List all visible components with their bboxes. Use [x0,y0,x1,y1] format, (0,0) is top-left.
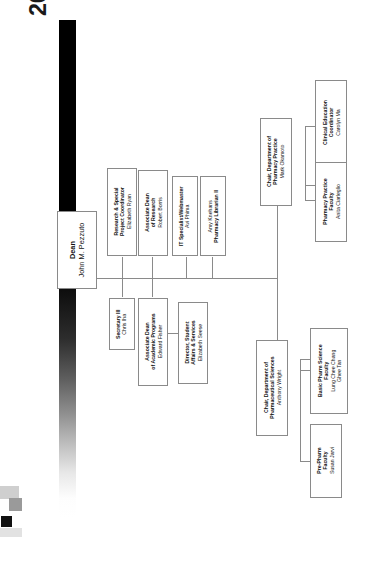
node-clinical-education-coordinator[interactable]: Clinical Education Coordinator Carolyn M… [315,80,347,166]
connector-pharm-sci-stub [300,359,310,360]
node-clinical-education-coordinator-title-1: Clinical Education [321,101,327,146]
node-pharmacy-practice-faculty-title-1: Pharmacy Practice [321,179,327,225]
node-pharmacy-practice-faculty-name: Anita Ciarleglio [334,179,340,225]
node-chair-pharmaceutical-sciences[interactable]: Chair, Department of Pharmaceutical Scie… [256,340,288,436]
node-pharmacy-practice-faculty[interactable]: Pharmacy Practice Faculty Anita Ciarlegl… [315,162,347,242]
node-research-coordinator-text: Research & Special Project Coordinator E… [112,188,131,237]
node-pharmacy-practice-faculty-text: Pharmacy Practice Faculty Anita Ciarlegl… [321,179,340,225]
connector-to-clinical-ed-coord [305,126,315,127]
connector-to-chair-pharmacy-practice [277,200,278,279]
connector-to-pharmacy-practice-faculty [305,185,315,186]
connector-to-assoc-dean-academic [152,279,153,297]
node-it-specialist-name: Avi Phima [185,186,191,246]
node-associate-dean-academic-title-2: of Academic Programs [150,314,156,370]
connector-to-basic-pharm-science-faculty [300,370,310,371]
node-it-specialist-text: IT Specialist/Webmaster Avi Phima [179,186,192,246]
node-director-student-affairs-title-2: Affairs & Services [190,321,196,365]
node-pharmacy-librarian[interactable]: Amy Knehans Pharmacy Librarian II [200,176,226,256]
node-chair-pharmaceutical-sciences-name: Anthony Wright [275,357,281,419]
node-director-student-affairs-title-1: Director, Student [183,321,189,365]
connector-to-pre-pharm-faculty [300,461,310,462]
node-chair-pharmacy-practice-name: Mark Okamoto [279,136,285,187]
node-associate-dean-academic-title-1: Associate Dean [143,314,149,370]
node-associate-dean-research[interactable]: Associate Dean of Research Robert Borris [138,170,168,256]
node-chair-pharmaceutical-sciences-text: Chair, Department of Pharmaceutical Scie… [262,357,281,419]
connector-to-assoc-dean-research [152,257,153,279]
node-pharmacy-practice-faculty-title-2: Faculty [328,179,334,225]
connector-pharmacy-practice-stub [305,200,315,201]
node-associate-dean-research-name: Robert Borris [156,194,162,233]
node-pre-pharm-faculty-name: Susan Jarvi [329,447,335,474]
node-chair-pharmaceutical-sciences-title-1: Chair, Department of [262,357,268,419]
connector-to-it-specialist [186,257,187,279]
node-dean-name: John M. Pezzuto [77,222,86,277]
org-chart-page: 2007 College of Pharmacy Organizational … [0,0,373,568]
node-research-coordinator[interactable]: Research & Special Project Coordinator E… [107,168,137,256]
node-research-coordinator-title-2: Project Coordinator [119,188,125,237]
node-dean-text: Dean John M. Pezzuto [68,222,86,277]
node-associate-dean-research-title-1: Associate Dean [143,194,149,233]
node-basic-pharm-science-faculty-title-2: Faculty [323,345,329,397]
connector-spine-main [112,278,278,279]
node-clinical-education-coordinator-name: Carolyn Ma [334,101,340,146]
node-secretary[interactable]: Secretary III Chris Iha [109,298,135,350]
node-dean[interactable]: Dean John M. Pezzuto [57,211,97,289]
node-secretary-text: Secretary III Chris Iha [116,309,129,338]
node-associate-dean-academic[interactable]: Associate Dean of Academic Programs Edwa… [138,298,168,386]
node-pre-pharm-faculty[interactable]: Pre-Pharm Faculty Susan Jarvi [310,424,342,498]
node-chair-pharmaceutical-sciences-title-2: Pharmaceutical Sciences [269,357,275,419]
connector-dean-to-spine [97,278,113,279]
connector-to-librarian [212,257,213,279]
node-chair-pharmacy-practice[interactable]: Chair, Department of Pharmacy Practice M… [260,118,292,206]
node-basic-pharm-science-faculty[interactable]: Basic Pharm Science Faculty Lung Chee Ch… [310,328,348,414]
node-basic-pharm-science-faculty-name-2: Ghee Tan [335,345,341,397]
node-basic-pharm-science-faculty-name-1: Lung Chee Chang [329,345,335,397]
node-associate-dean-academic-name: Edward Fisher [156,314,162,370]
node-director-student-affairs-name: Elizabeth Seese [196,321,202,365]
connector-pharmacy-practice-children-spine [305,126,306,200]
node-associate-dean-research-title-2: of Research [150,194,156,233]
node-clinical-education-coordinator-text: Clinical Education Coordinator Carolyn M… [321,101,340,146]
node-basic-pharm-science-faculty-text: Basic Pharm Science Faculty Lung Chee Ch… [316,345,341,397]
node-research-coordinator-title-1: Research & Special [112,188,118,237]
node-pharmacy-librarian-text: Amy Knehans Pharmacy Librarian II [207,190,220,243]
connector-to-research-coord [122,257,123,279]
node-associate-dean-research-text: Associate Dean of Research Robert Borris [143,194,162,233]
connector-to-secretary [122,279,123,297]
node-pre-pharm-faculty-text: Pre-Pharm Faculty Susan Jarvi [316,447,335,474]
node-clinical-education-coordinator-title-2: Coordinator [328,101,334,146]
node-it-specialist[interactable]: IT Specialist/Webmaster Avi Phima [172,176,198,256]
node-basic-pharm-science-faculty-title-1: Basic Pharm Science [316,345,322,397]
connector-pharmaceutical-sciences-children-spine [300,359,301,461]
node-secretary-name: Chris Iha [122,309,128,338]
node-pharmacy-librarian-name: Amy Knehans [207,190,213,243]
org-chart: Dean John M. Pezzuto Research & Special … [0,0,373,568]
node-associate-dean-academic-text: Associate Dean of Academic Programs Edwa… [143,314,162,370]
node-director-student-affairs[interactable]: Director, Student Affairs & Services Eli… [178,302,208,384]
node-director-student-affairs-text: Director, Student Affairs & Services Eli… [183,321,202,365]
node-pharmacy-librarian-title: Pharmacy Librarian II [213,190,219,243]
node-chair-pharmacy-practice-text: Chair, Department of Pharmacy Practice M… [266,136,285,187]
node-research-coordinator-name: Elizabeth Ryan [125,188,131,237]
